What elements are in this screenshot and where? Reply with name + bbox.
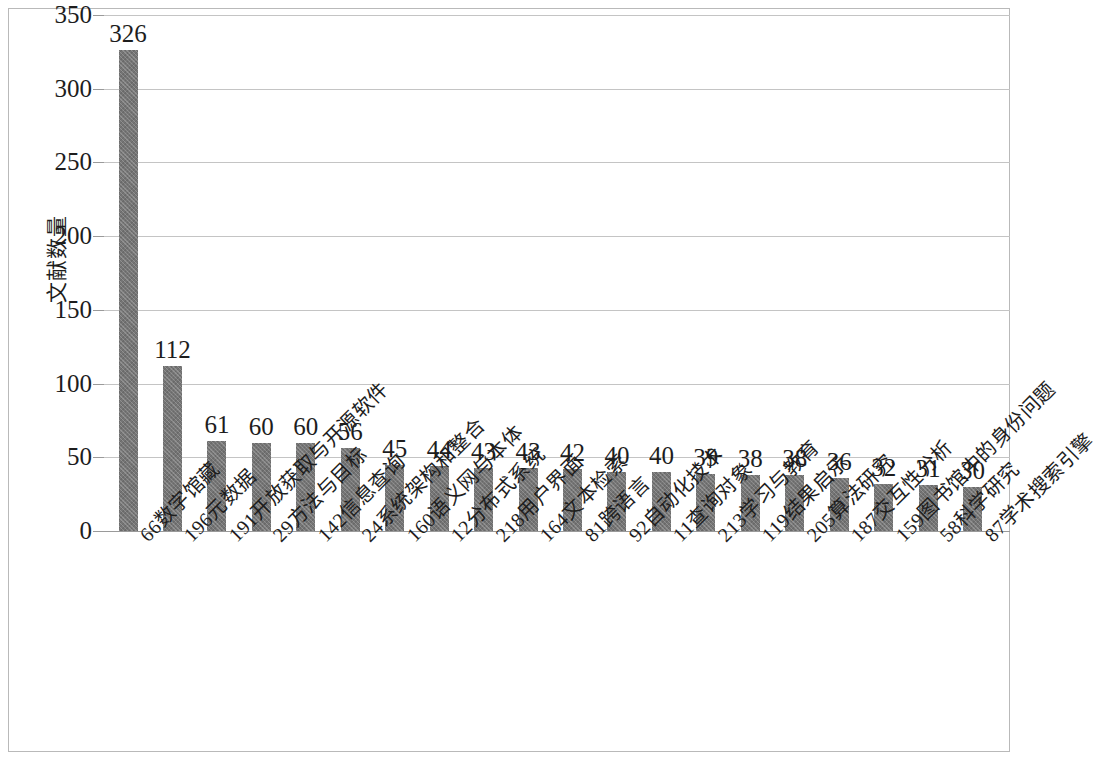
y-axis-tick-label: 150 — [30, 297, 92, 322]
y-axis-tick-mark — [93, 89, 104, 90]
y-axis-tick-mark — [93, 384, 104, 385]
y-axis-tick-mark — [93, 457, 104, 458]
gridline — [104, 162, 1010, 163]
plot-area: 3261126160605645444343424040393838363231… — [104, 15, 1010, 531]
gridline — [104, 236, 1010, 237]
y-axis-tick-label: 100 — [30, 371, 92, 396]
y-axis-tick-label: 0 — [30, 518, 92, 543]
gridline — [104, 384, 1010, 385]
x-axis-label-group: 66数字馆藏196元数据191开放获取与开源软件29方法与目标142信息查询24… — [104, 531, 1010, 766]
bar[interactable] — [119, 50, 138, 531]
gridline — [104, 15, 1010, 16]
y-axis-tick-label: 300 — [30, 76, 92, 101]
gridline — [104, 310, 1010, 311]
y-axis-tick-mark — [93, 15, 104, 16]
y-axis-tick-mark — [93, 531, 104, 532]
y-axis-tick-mark — [93, 310, 104, 311]
y-axis-tick-label: 200 — [30, 223, 92, 248]
y-axis-tick-mark — [93, 236, 104, 237]
y-axis-tick-label: 50 — [30, 444, 92, 469]
gridline — [104, 89, 1010, 90]
y-axis-tick-label: 250 — [30, 149, 92, 174]
bar-value-label: 112 — [142, 337, 202, 362]
y-axis-tick-mark — [93, 162, 104, 163]
bar-value-label: 326 — [98, 21, 158, 46]
y-axis-tick-label: 350 — [30, 2, 92, 27]
